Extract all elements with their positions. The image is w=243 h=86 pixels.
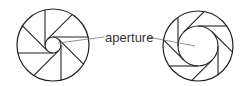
iris-blade-edge bbox=[23, 26, 48, 51]
iris-outer-ring bbox=[163, 11, 233, 81]
small-aperture-iris bbox=[17, 9, 89, 81]
aperture-edge bbox=[45, 45, 47, 51]
iris-blade-edge bbox=[59, 39, 84, 64]
iris-blade-edge bbox=[47, 15, 72, 40]
aperture-edge bbox=[212, 46, 218, 60]
aperture-edge bbox=[198, 26, 212, 32]
aperture-edge bbox=[47, 37, 53, 39]
aperture-diagram: aperture bbox=[0, 0, 243, 86]
aperture-edge bbox=[212, 32, 218, 46]
aperture-edge bbox=[59, 39, 61, 45]
iris-outer-ring bbox=[17, 9, 89, 81]
iris-blade-edge bbox=[34, 51, 59, 76]
aperture-edge bbox=[178, 46, 184, 60]
aperture-label: aperture bbox=[105, 30, 153, 45]
aperture-edge bbox=[184, 26, 198, 32]
aperture-edge bbox=[53, 51, 59, 53]
aperture-edge bbox=[184, 60, 198, 66]
leader-line-right bbox=[148, 37, 195, 46]
leader-line-left bbox=[58, 37, 104, 43]
aperture-edge bbox=[198, 60, 212, 66]
large-aperture-iris bbox=[163, 11, 233, 81]
